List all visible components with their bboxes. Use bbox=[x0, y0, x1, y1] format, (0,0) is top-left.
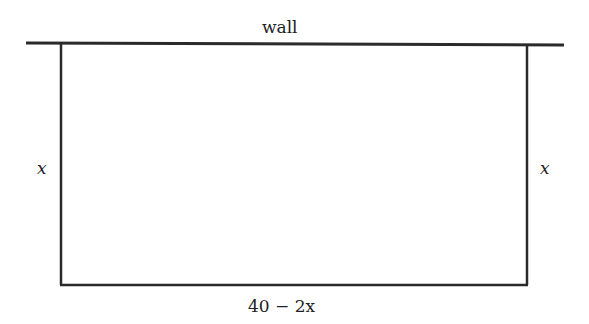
bottom-side-label-text: 40 − 2x bbox=[248, 296, 315, 316]
diagram-canvas bbox=[0, 0, 589, 324]
left-side-label: x bbox=[37, 160, 47, 177]
bottom-side-label: 40 − 2x bbox=[248, 298, 315, 315]
wall-line bbox=[26, 43, 564, 45]
right-side-label: x bbox=[540, 160, 550, 177]
wall-label: wall bbox=[262, 19, 298, 36]
